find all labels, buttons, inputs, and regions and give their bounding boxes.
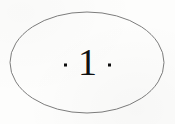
page-number: 1	[78, 43, 97, 81]
right-dot-icon	[108, 64, 111, 67]
ornament-group: 1	[0, 0, 175, 124]
figure-canvas: 1	[0, 0, 175, 124]
left-dot-icon	[64, 64, 67, 67]
ornament-row: 1	[64, 43, 110, 81]
